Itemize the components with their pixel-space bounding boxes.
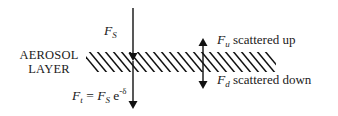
scattered-up-label: Fu scattered up (217, 32, 295, 49)
incident-flux-arrow (129, 8, 138, 61)
transmitted-flux-label: Ft = FS e-δ (72, 86, 127, 105)
transmitted-rhs-subscript: S (105, 95, 110, 105)
incident-flux-subscript: S (112, 30, 117, 40)
incident-flux-symbol: F (104, 23, 112, 38)
scattered-up-subscript: u (225, 39, 230, 49)
transmitted-flux-symbol: F (72, 88, 80, 103)
scattered-down-label: Fd scattered down (217, 72, 311, 89)
aerosol-label-line1: AEROSOL (14, 48, 84, 62)
aerosol-label-line2: LAYER (14, 62, 84, 76)
scattered-down-text: scattered down (233, 72, 311, 87)
scattered-up-text: scattered up (233, 32, 295, 47)
aerosol-layer-label: AEROSOL LAYER (14, 48, 84, 76)
aerosol-layer-hatching (80, 50, 284, 74)
incident-flux-label: FS (104, 23, 117, 40)
scattered-up-symbol: F (217, 32, 225, 47)
scattered-down-subscript: d (225, 79, 230, 89)
scattered-flux-double-arrow (199, 38, 208, 89)
transmitted-flux-arrow (129, 61, 138, 109)
exp-power: -δ (119, 86, 126, 96)
transmitted-flux-subscript: t (80, 95, 83, 105)
scattered-down-symbol: F (217, 72, 225, 87)
equals-sign: = (86, 88, 94, 103)
